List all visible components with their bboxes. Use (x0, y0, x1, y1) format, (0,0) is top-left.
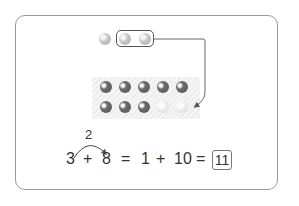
equation-equals-2: = (196, 150, 205, 168)
equation-term-d: 10 (174, 150, 192, 168)
equation-plus-2: + (156, 150, 165, 168)
arrows-overlay (0, 0, 299, 206)
equation-term-b: 8 (102, 150, 111, 168)
arc-label: 2 (85, 127, 92, 142)
move-arrow (154, 39, 205, 106)
equation-equals-1: = (121, 150, 130, 168)
answer-box: 11 (212, 150, 232, 170)
equation-term-a: 3 (66, 150, 75, 168)
equation-term-c: 1 (141, 150, 150, 168)
equation-plus-1: + (83, 150, 92, 168)
